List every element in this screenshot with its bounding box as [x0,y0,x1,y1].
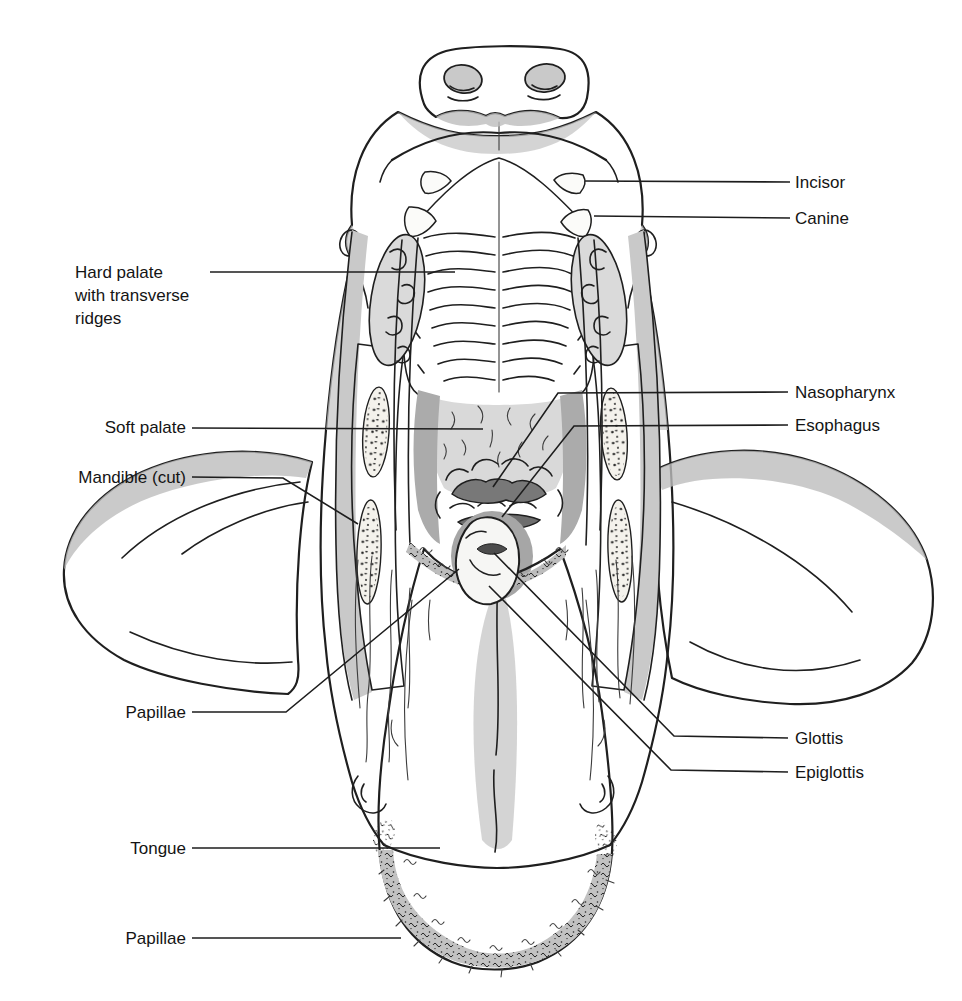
label-papillae-mid: Papillae [0,701,186,724]
label-soft-palate: Soft palate [0,416,186,439]
mandible-bone-right [598,387,634,602]
canine-left-tooth [405,207,436,236]
leader-soft-palate [192,428,483,429]
canine-right-tooth [561,210,591,237]
leader-canine [594,216,790,218]
hard-palate [403,158,594,410]
epiglottis-shape [456,517,519,604]
label-hard-palate: Hard palate with transverse ridges [75,261,209,330]
label-incisor: Incisor [795,171,845,194]
tongue-corner-curl-right [580,776,614,813]
leader-incisor [585,181,790,182]
label-canine: Canine [795,207,849,230]
mandible-bone-left [355,386,392,604]
figure-canvas: Hard palate with transverse ridges Soft … [0,0,962,1001]
label-glottis: Glottis [795,727,843,750]
label-esophagus: Esophagus [795,414,880,437]
incisor-right-tooth [554,173,585,193]
pig-snout [420,46,589,127]
incisor-left-tooth [421,171,451,193]
nasopharynx-opening [452,479,546,503]
nostril-left [442,62,484,100]
label-nasopharynx: Nasopharynx [795,381,895,404]
label-epiglottis: Epiglottis [795,761,864,784]
label-papillae-tip: Papillae [0,927,186,950]
label-tongue: Tongue [0,837,186,860]
label-mandible-cut: Mandible (cut) [0,466,186,489]
nostril-right [524,62,567,100]
cheek-flap-right [654,451,933,705]
